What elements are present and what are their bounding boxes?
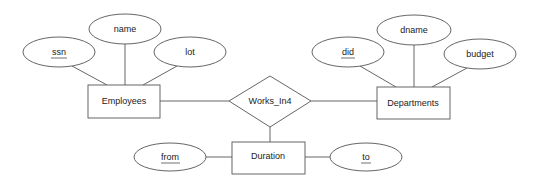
- er-diagram: ssn name lot Employees Works_In4 did dna…: [0, 0, 540, 184]
- edge-ssn-employees: [72, 66, 107, 85]
- attribute-label: lot: [185, 47, 195, 57]
- entity-departments: Departments: [377, 87, 450, 119]
- attribute-label: did: [342, 47, 354, 57]
- attribute-dname: dname: [377, 15, 451, 45]
- entity-label: Duration: [251, 151, 285, 161]
- attribute-did: did: [312, 37, 384, 67]
- attribute-to: to: [330, 143, 402, 171]
- attribute-from: from: [134, 143, 206, 171]
- entity-label: Departments: [387, 98, 439, 108]
- edge-did-departments: [360, 66, 396, 87]
- entity-label: Employees: [102, 96, 147, 106]
- attribute-label: to: [362, 152, 370, 162]
- attribute-label: name: [114, 24, 137, 34]
- attribute-name: name: [89, 14, 161, 44]
- attribute-label: budget: [466, 49, 494, 59]
- edge-budget-departments: [432, 68, 467, 87]
- attribute-ssn: ssn: [23, 37, 95, 67]
- attribute-label: from: [161, 152, 179, 162]
- attribute-lot: lot: [154, 37, 226, 67]
- entity-duration: Duration: [232, 142, 305, 174]
- attribute-label: ssn: [52, 47, 66, 57]
- attribute-budget: budget: [444, 39, 516, 69]
- relationship-label: Works_In4: [249, 96, 292, 106]
- attribute-label: dname: [400, 25, 428, 35]
- edge-lot-employees: [143, 66, 177, 85]
- entity-employees: Employees: [88, 85, 160, 118]
- relationship-works_in4: Works_In4: [229, 76, 311, 127]
